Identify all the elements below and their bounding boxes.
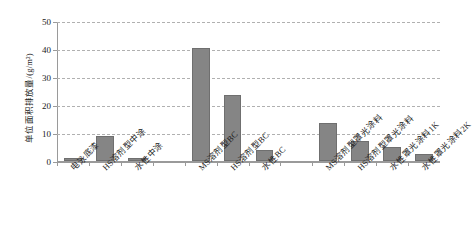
y-tick-label: 20 <box>42 101 51 111</box>
y-tick-label: 40 <box>42 45 51 55</box>
x-axis-labels: 电泳底漆HS溶剂型中涂水性中涂MS溶剂型BCHS溶剂型BC水性BCMS溶剂型罩光… <box>57 164 440 249</box>
y-tick-mark <box>53 22 57 23</box>
gridline <box>57 22 440 23</box>
y-tick-label: 10 <box>42 129 51 139</box>
gridline <box>57 50 440 51</box>
y-tick-label: 0 <box>47 157 52 167</box>
y-tick-mark <box>53 78 57 79</box>
y-tick-label: 30 <box>42 73 51 83</box>
gridline <box>57 78 440 79</box>
y-axis-line <box>57 22 58 162</box>
y-tick-label: 50 <box>42 17 51 27</box>
y-tick-mark <box>53 106 57 107</box>
gridline <box>57 106 440 107</box>
y-axis-title: 单位面积排放量/(g/m²) <box>22 18 34 178</box>
y-tick-mark <box>53 134 57 135</box>
bar <box>192 48 210 161</box>
y-tick-mark <box>53 50 57 51</box>
